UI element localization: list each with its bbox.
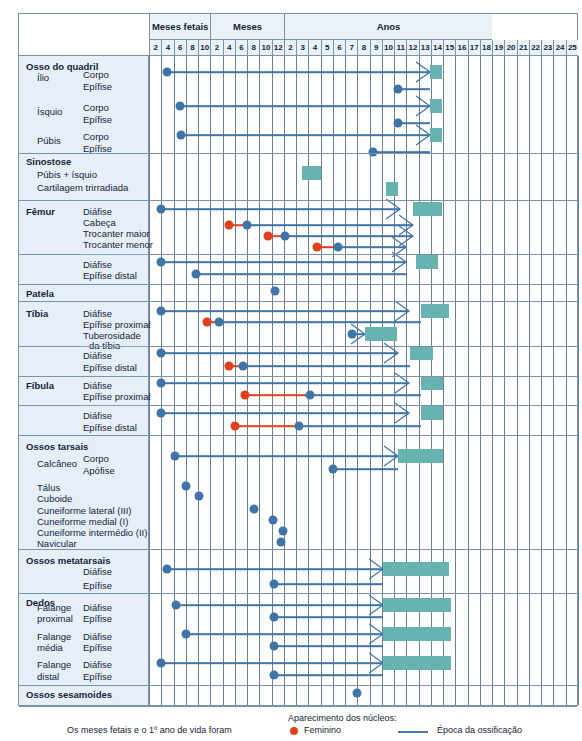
male-nucleus-dot	[393, 119, 402, 128]
part-label: Diáfise	[83, 566, 112, 577]
legend-female-dot-icon	[290, 727, 298, 735]
legend-female-label: Feminino	[304, 725, 341, 735]
male-nucleus-dot	[157, 659, 166, 668]
fusion-period-block	[421, 376, 443, 390]
ossification-line	[274, 583, 383, 585]
section-separator-4	[19, 301, 577, 302]
bone-label: Falange	[37, 659, 71, 670]
ossification-line	[186, 633, 383, 635]
tick-19: 10	[382, 40, 394, 56]
ossification-line	[398, 88, 430, 90]
part-label: Cabeça	[83, 217, 116, 228]
section-title: Ossos sesamoides	[26, 689, 112, 700]
ossification-line	[243, 365, 410, 367]
male-nucleus-dot	[156, 379, 165, 388]
male-nucleus-dot	[156, 205, 165, 214]
sub-separator-1	[81, 346, 147, 347]
part-label: Corpo	[83, 69, 109, 80]
female-nucleus-dot	[224, 221, 233, 230]
male-nucleus-dot	[353, 689, 362, 698]
tick-1: 4	[161, 40, 173, 56]
section-separator-10	[19, 593, 577, 594]
part-label: Epífise	[83, 613, 112, 624]
tick-24: 15	[443, 40, 455, 56]
part-label: Epífise	[83, 580, 112, 591]
male-nucleus-dot	[294, 422, 303, 431]
male-nucleus-dot	[277, 538, 286, 547]
tick-26: 17	[468, 40, 480, 56]
section-title: Fêmur	[26, 206, 55, 217]
ossification-line	[274, 674, 383, 676]
fusion-period-block	[416, 255, 438, 269]
male-nucleus-dot	[239, 362, 248, 371]
male-nucleus-dot	[181, 630, 190, 639]
header-group-1: Meses	[210, 14, 284, 40]
fusion-period-block	[421, 406, 443, 420]
tick-28: 19	[492, 40, 504, 56]
part-label: Diáfise	[83, 308, 112, 319]
tick-31: 22	[529, 40, 541, 56]
sub-separator-0	[81, 254, 147, 255]
ossification-line	[176, 604, 383, 606]
bone-label: Púbis + ísquio	[37, 169, 97, 180]
male-nucleus-dot	[156, 349, 165, 358]
section-separator-12	[19, 706, 577, 707]
male-nucleus-dot	[393, 85, 402, 94]
part-label: Epífise proximal	[83, 319, 151, 330]
tick-0: 2	[149, 40, 161, 56]
ossification-line	[247, 224, 412, 226]
fusion-period-block	[383, 598, 450, 612]
male-nucleus-dot	[163, 68, 172, 77]
tick-18: 9	[370, 40, 382, 56]
header-tick-row: 2468102468101223456789101112131415161718…	[19, 40, 577, 56]
male-nucleus-dot	[214, 318, 223, 327]
part-label: Epífise proximal	[83, 391, 151, 402]
part-label: Epífise distal	[83, 270, 137, 281]
section-separator-3	[19, 284, 577, 285]
tick-33: 24	[553, 40, 565, 56]
section-separator-9	[19, 549, 577, 550]
male-nucleus-dot	[191, 270, 200, 279]
section-title: Ossos metatarsais	[26, 555, 111, 566]
part-label: Diáfise	[83, 659, 112, 670]
bone-label: Ísquio	[37, 106, 62, 117]
legend-note: Os meses fetais e o 1º ano de vida foram	[67, 725, 232, 735]
header-group-row: Meses fetaisMesesAnos	[19, 14, 577, 40]
header-group-0: Meses fetais	[149, 14, 210, 40]
male-nucleus-dot	[181, 482, 190, 491]
ossification-line	[161, 261, 407, 263]
female-nucleus-dot	[224, 362, 233, 371]
fusion-period-block	[383, 627, 450, 641]
section-separator-1	[19, 200, 577, 201]
section-title: Fíbula	[26, 380, 54, 391]
tick-17: 8	[357, 40, 369, 56]
male-nucleus-dot	[348, 330, 357, 339]
fusion-period-block	[413, 202, 442, 216]
ossification-line	[274, 645, 383, 647]
legend-ossification-label: Época da ossificação	[437, 725, 522, 735]
part-label: Diáfise	[83, 410, 112, 421]
bone-label: distal	[37, 671, 59, 682]
female-nucleus-dot	[240, 391, 249, 400]
tick-20: 11	[394, 40, 406, 56]
part-label: Epífise	[83, 642, 112, 653]
tick-34: 25	[566, 40, 578, 56]
part-label: Diáfise	[83, 631, 112, 642]
tick-32: 23	[541, 40, 553, 56]
tick-22: 13	[419, 40, 431, 56]
bone-label: Falange	[37, 602, 71, 613]
bone-label: Cuboide	[37, 493, 72, 504]
chart-frame: Meses fetaisMesesAnos 246810246810122345…	[18, 13, 578, 706]
part-label: Epífise distal	[83, 362, 137, 373]
section-title: Tíbia	[26, 308, 48, 319]
bone-label: Cuneiforme medial (I)	[37, 516, 128, 527]
part-label: Diáfise	[83, 206, 112, 217]
fusion-period-block	[398, 449, 443, 463]
part-label: Corpo	[83, 131, 109, 142]
ossification-line	[161, 352, 398, 354]
part-label: Diáfise	[83, 259, 112, 270]
male-nucleus-dot	[156, 307, 165, 316]
sub-separator-2	[81, 405, 147, 406]
ossification-line	[196, 273, 407, 275]
fusion-period-block	[410, 346, 433, 360]
